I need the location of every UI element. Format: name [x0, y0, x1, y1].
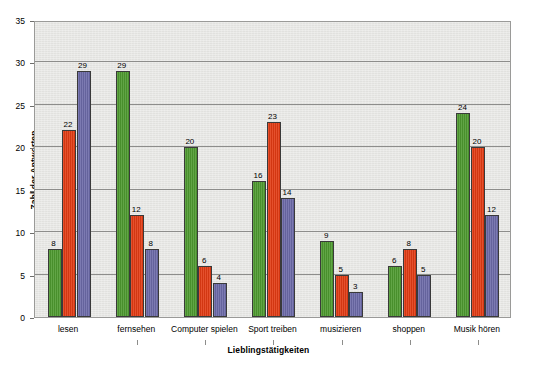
bar-texture — [472, 148, 484, 316]
bar-texture — [321, 242, 333, 316]
bar-value-label: 12 — [479, 206, 503, 214]
y-tick-mark — [30, 191, 34, 192]
plot-area — [34, 21, 511, 318]
bar — [267, 122, 281, 317]
bar-value-label: 8 — [42, 240, 66, 248]
bar — [471, 147, 485, 317]
bar-value-label: 4 — [207, 274, 231, 282]
bar-value-label: 16 — [246, 172, 270, 180]
y-tick-label: 0 — [0, 314, 25, 323]
bar-value-label: 20 — [178, 138, 202, 146]
bar-chart: Zahl der Antworten 05101520253035 822292… — [0, 0, 537, 371]
x-tick-label: lesen — [34, 324, 102, 334]
bar-texture — [185, 148, 197, 316]
bar — [48, 249, 62, 317]
bar — [62, 130, 76, 317]
x-tick-label: Sport treiben — [238, 324, 306, 334]
bar-texture — [63, 131, 75, 316]
bar-texture — [78, 72, 90, 316]
bar-texture — [389, 267, 401, 316]
bar-value-label: 6 — [382, 257, 406, 265]
x-tick-label: shoppen — [375, 324, 443, 334]
bar — [417, 275, 431, 317]
bar — [388, 266, 402, 317]
bar-texture — [49, 250, 61, 316]
bar — [320, 241, 334, 317]
y-tick-mark — [30, 233, 34, 234]
y-tick-label: 30 — [0, 59, 25, 68]
y-tick-label: 10 — [0, 229, 25, 238]
bar-texture — [214, 284, 226, 316]
y-tick-mark — [30, 21, 34, 22]
gridline — [35, 104, 510, 105]
bar-value-label: 9 — [314, 232, 338, 240]
bar-texture — [418, 276, 430, 316]
bar-texture — [117, 72, 129, 316]
bar — [184, 147, 198, 317]
bar-texture — [350, 293, 362, 316]
bar — [349, 292, 363, 317]
x-axis-title: Lieblingstätigkeiten — [0, 345, 537, 355]
bar — [252, 181, 266, 317]
bar — [130, 215, 144, 317]
bar-texture — [268, 123, 280, 316]
bar-value-label: 5 — [329, 266, 353, 274]
y-tick-label: 5 — [0, 272, 25, 281]
bar-value-label: 8 — [139, 240, 163, 248]
y-tick-mark — [30, 276, 34, 277]
y-tick-label: 15 — [0, 187, 25, 196]
y-tick-label: 20 — [0, 144, 25, 153]
bar-value-label: 29 — [71, 62, 95, 70]
bar — [116, 71, 130, 317]
bar-value-label: 20 — [465, 138, 489, 146]
bar — [485, 215, 499, 317]
x-tick-label: Computer spielen — [170, 324, 238, 334]
y-tick-mark — [30, 106, 34, 107]
gridline — [35, 61, 510, 62]
x-tick-label: musizieren — [307, 324, 375, 334]
bar-value-label: 3 — [343, 283, 367, 291]
bar-value-label: 23 — [261, 113, 285, 121]
y-tick-label: 35 — [0, 17, 25, 26]
x-tick-label: fernsehen — [102, 324, 170, 334]
bar-texture — [282, 199, 294, 316]
bar-texture — [253, 182, 265, 316]
y-tick-label: 25 — [0, 102, 25, 111]
bar-value-label: 14 — [275, 189, 299, 197]
bar — [335, 275, 349, 317]
x-tick-label: Musik hören — [443, 324, 511, 334]
bar-value-label: 12 — [124, 206, 148, 214]
y-tick-mark — [30, 148, 34, 149]
bar-value-label: 24 — [450, 104, 474, 112]
bar-texture — [146, 250, 158, 316]
bar-value-label: 8 — [397, 240, 421, 248]
bar — [77, 71, 91, 317]
bar-texture — [486, 216, 498, 316]
bar-value-label: 22 — [56, 121, 80, 129]
bar — [145, 249, 159, 317]
bar — [213, 283, 227, 317]
bar-value-label: 5 — [411, 266, 435, 274]
bar — [281, 198, 295, 317]
y-tick-mark — [30, 63, 34, 64]
bar-texture — [131, 216, 143, 316]
bar-value-label: 6 — [192, 257, 216, 265]
y-tick-mark — [30, 318, 34, 319]
bar-value-label: 29 — [110, 62, 134, 70]
